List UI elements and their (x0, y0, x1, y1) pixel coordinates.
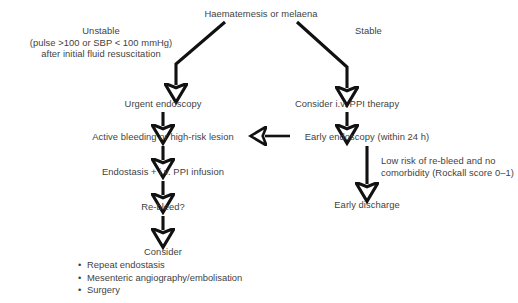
node-consider-iv-ppi-therapy: Consider i.v. PPI therapy (295, 98, 399, 110)
branch-label-unstable-detail-2: after initial fluid resuscitation (6, 48, 196, 60)
bullet-icon: • (78, 284, 81, 297)
consider-options-list: • Repeat endostasis • Mesenteric angiogr… (78, 259, 242, 297)
list-item-label: Mesenteric angiography/embolisation (87, 272, 242, 283)
branch-label-stable: Stable (355, 25, 382, 37)
list-item: • Repeat endostasis (78, 259, 242, 272)
branch-label-unstable-detail-1: (pulse >100 or SBP < 100 mmHg) (6, 37, 196, 49)
annotation-low-risk-rockall: Low risk of re-bleed and no comorbidity … (381, 155, 518, 178)
bullet-icon: • (78, 272, 81, 285)
list-item-label: Repeat endostasis (87, 259, 165, 270)
edge-title-to-consider-ppi (297, 22, 347, 88)
branch-label-unstable-group: Unstable (pulse >100 or SBP < 100 mmHg) … (6, 25, 196, 60)
bullet-icon: • (78, 259, 81, 272)
node-re-bleed: Re-bleed? (141, 201, 185, 213)
node-consider: Consider (144, 246, 182, 258)
flowchart-canvas: Haematemesis or melaena Unstable (pulse … (0, 0, 518, 303)
branch-label-unstable: Unstable (6, 25, 196, 37)
node-early-discharge: Early discharge (334, 199, 399, 211)
list-item: • Mesenteric angiography/embolisation (78, 272, 242, 285)
node-haematemesis-or-melaena: Haematemesis or melaena (204, 8, 317, 20)
list-item: • Surgery (78, 284, 242, 297)
list-item-label: Surgery (87, 284, 120, 295)
annotation-low-risk-line-1: Low risk of re-bleed and no (381, 155, 518, 167)
node-endostasis-plus-ppi-infusion: Endostasis + i.v. PPI infusion (102, 166, 224, 178)
node-early-endoscopy-within-24h: Early endoscopy (within 24 h) (305, 131, 429, 143)
node-urgent-endoscopy: Urgent endoscopy (125, 98, 202, 110)
node-active-bleeding-or-high-risk-lesion: Active bleeding or high-risk lesion (92, 131, 233, 143)
annotation-low-risk-line-2: comorbidity (Rockall score 0–1) (381, 167, 518, 179)
